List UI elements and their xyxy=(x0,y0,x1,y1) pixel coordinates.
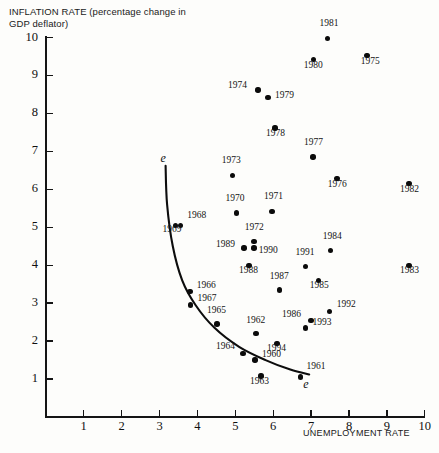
y-tick-label: 8 xyxy=(12,105,38,120)
x-tick-label: 2 xyxy=(110,419,134,434)
data-point-1990[interactable] xyxy=(251,245,256,250)
data-point-label-1991: 1991 xyxy=(295,247,314,257)
data-point-1987[interactable] xyxy=(277,287,282,292)
x-tick-mark xyxy=(273,410,274,417)
y-axis-title: INFLATION RATE (percentage change in GDP… xyxy=(9,6,209,30)
y-tick-label: 6 xyxy=(12,181,38,196)
data-point-1960[interactable] xyxy=(252,357,257,362)
data-point-label-1965: 1965 xyxy=(207,305,226,315)
data-point-label-1986: 1986 xyxy=(282,309,301,319)
data-point-label-1981: 1981 xyxy=(319,18,338,28)
data-point-1970[interactable] xyxy=(234,210,239,215)
curve-endpoint-label: e xyxy=(160,151,165,166)
data-point-label-1990: 1990 xyxy=(259,245,278,255)
data-point-label-1976: 1976 xyxy=(328,179,347,189)
x-tick-label: 1 xyxy=(72,419,96,434)
data-point-1972[interactable] xyxy=(251,239,256,244)
data-point-1964[interactable] xyxy=(240,351,245,356)
data-point-1992[interactable] xyxy=(327,309,332,314)
data-point-label-1984: 1984 xyxy=(323,231,342,241)
data-point-label-1963: 1963 xyxy=(250,376,269,386)
data-point-1993[interactable] xyxy=(303,325,308,330)
x-tick-mark xyxy=(310,410,311,417)
data-point-label-1966: 1966 xyxy=(197,280,216,290)
data-point-label-1980: 1980 xyxy=(304,60,323,70)
y-tick-mark xyxy=(46,151,53,152)
x-tick-label: 10 xyxy=(413,419,437,434)
data-point-label-1989: 1989 xyxy=(216,239,235,249)
x-tick-mark xyxy=(235,410,236,417)
data-point-1974[interactable] xyxy=(255,87,260,92)
y-tick-mark xyxy=(46,227,53,228)
data-point-label-1964: 1964 xyxy=(216,341,235,351)
y-tick-label: 9 xyxy=(12,67,38,82)
data-point-label-1992: 1992 xyxy=(337,299,356,309)
data-point-label-1977: 1977 xyxy=(304,137,323,147)
x-tick-label: 6 xyxy=(261,419,285,434)
y-tick-mark xyxy=(46,75,53,76)
y-tick-mark xyxy=(46,340,53,341)
data-point-1979[interactable] xyxy=(265,95,270,100)
x-tick-label: 7 xyxy=(299,419,323,434)
x-tick-label: 8 xyxy=(337,419,361,434)
x-tick-mark xyxy=(121,410,122,417)
x-tick-label: 3 xyxy=(148,419,172,434)
x-tick-label: 4 xyxy=(185,419,209,434)
data-point-label-1975: 1975 xyxy=(361,56,380,66)
y-tick-label: 3 xyxy=(12,295,38,310)
data-point-label-1973: 1973 xyxy=(222,155,241,165)
data-point-1984[interactable] xyxy=(328,248,333,253)
x-tick-mark xyxy=(424,410,425,417)
data-point-1991[interactable] xyxy=(303,264,308,269)
data-point-1962[interactable] xyxy=(253,331,258,336)
y-tick-mark xyxy=(46,113,53,114)
y-tick-label: 2 xyxy=(12,333,38,348)
x-tick-label: 5 xyxy=(223,419,247,434)
data-point-1967[interactable] xyxy=(188,302,193,307)
data-point-1966[interactable] xyxy=(187,289,192,294)
y-tick-label: 1 xyxy=(12,371,38,386)
x-tick-mark xyxy=(348,410,349,417)
y-tick-label: 7 xyxy=(12,143,38,158)
x-tick-mark xyxy=(83,410,84,417)
x-tick-label: 9 xyxy=(375,419,399,434)
data-point-1981[interactable] xyxy=(325,36,330,41)
data-point-label-1968: 1968 xyxy=(187,210,206,220)
data-point-label-1962: 1962 xyxy=(246,315,265,325)
y-tick-mark xyxy=(46,37,53,38)
data-point-label-1988: 1988 xyxy=(239,265,258,275)
y-tick-mark xyxy=(46,265,53,266)
y-tick-mark xyxy=(46,189,53,190)
data-point-label-1987: 1987 xyxy=(270,271,289,281)
data-point-label-1974: 1974 xyxy=(228,80,247,90)
data-point-1977[interactable] xyxy=(310,154,315,159)
data-point-label-1972: 1972 xyxy=(245,222,264,232)
data-point-1989[interactable] xyxy=(241,245,246,250)
y-tick-label: 4 xyxy=(12,257,38,272)
y-tick-mark xyxy=(46,302,53,303)
data-point-1965[interactable] xyxy=(214,321,219,326)
y-tick-mark xyxy=(46,378,53,379)
data-point-label-1961: 1961 xyxy=(306,361,325,371)
x-tick-mark xyxy=(159,410,160,417)
y-tick-label: 10 xyxy=(12,30,38,45)
data-point-label-1960: 1960 xyxy=(262,349,281,359)
y-tick-label: 5 xyxy=(12,219,38,234)
data-point-label-1971: 1971 xyxy=(264,191,283,201)
curve-endpoint-label: e xyxy=(303,377,308,392)
phillips-curve-line xyxy=(0,0,439,453)
data-point-label-1978: 1978 xyxy=(266,128,285,138)
data-point-1973[interactable] xyxy=(230,173,235,178)
data-point-label-1967: 1967 xyxy=(198,293,217,303)
data-point-label-1970: 1970 xyxy=(225,193,244,203)
phillips-curve-scatter-chart: INFLATION RATE (percentage change in GDP… xyxy=(0,0,439,453)
data-point-label-1983: 1983 xyxy=(400,265,419,275)
data-point-label-1979: 1979 xyxy=(275,90,294,100)
x-tick-mark xyxy=(197,410,198,417)
data-point-label-1969: 1969 xyxy=(162,224,181,234)
data-point-label-1982: 1982 xyxy=(400,184,419,194)
x-tick-mark xyxy=(386,410,387,417)
data-point-1971[interactable] xyxy=(269,209,274,214)
data-point-label-1985: 1985 xyxy=(310,280,329,290)
data-point-label-1993: 1993 xyxy=(312,317,331,327)
